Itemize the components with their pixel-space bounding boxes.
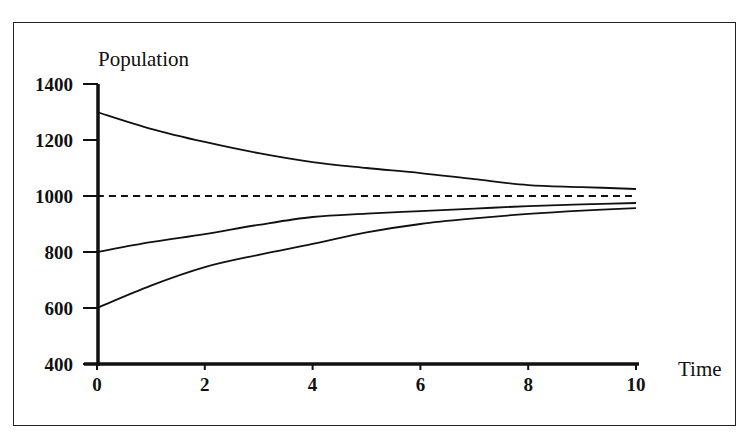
- x-tick-label: 2: [200, 374, 210, 395]
- y-tick-label: 800: [45, 242, 74, 263]
- x-tick-label: 0: [92, 374, 102, 395]
- y-tick-label: 1000: [35, 186, 73, 207]
- population-curve: [97, 112, 636, 189]
- axes: [84, 84, 639, 366]
- population-curve: [97, 203, 636, 252]
- x-tick-label: 8: [523, 374, 533, 395]
- y-tick-label: 1400: [35, 74, 73, 95]
- y-tick-label: 1200: [35, 130, 73, 151]
- x-tick-label: 4: [308, 374, 318, 395]
- x-axis-title: Time: [678, 357, 722, 381]
- x-tick-label: 10: [627, 374, 646, 395]
- y-tick-label: 600: [45, 298, 74, 319]
- population-chart: 400600800100012001400 0246810 Population…: [0, 0, 743, 437]
- y-tick-label: 400: [45, 354, 74, 375]
- x-tick-label: 6: [416, 374, 426, 395]
- population-curve: [97, 208, 636, 308]
- y-ticks: 400600800100012001400: [35, 74, 98, 375]
- x-ticks: 0246810: [92, 364, 645, 395]
- y-axis-title: Population: [98, 47, 190, 71]
- data-series: [97, 112, 636, 308]
